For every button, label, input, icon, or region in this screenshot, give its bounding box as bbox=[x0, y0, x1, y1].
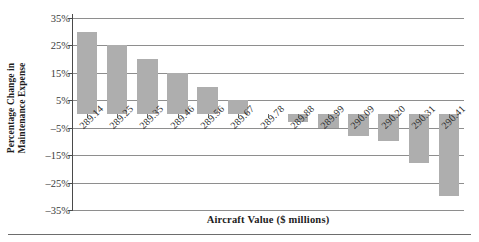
gridline bbox=[72, 18, 464, 19]
y-axis-tick-mark bbox=[68, 73, 73, 74]
bar bbox=[137, 59, 158, 114]
x-axis-tick-mark bbox=[238, 114, 239, 118]
x-axis-tick-mark bbox=[178, 114, 179, 118]
x-axis-tick-mark bbox=[268, 114, 269, 118]
gridline bbox=[72, 183, 464, 184]
x-axis-tick-mark bbox=[449, 114, 450, 118]
bar bbox=[167, 73, 188, 114]
bar bbox=[228, 100, 249, 114]
y-axis-tick-mark bbox=[68, 128, 73, 129]
y-axis-tick-label: 15% bbox=[26, 67, 70, 78]
y-axis-tick-label: 5% bbox=[26, 95, 70, 106]
y-axis-tick-label: –15% bbox=[26, 150, 70, 161]
bottom-divider bbox=[8, 234, 471, 235]
x-axis-title: Aircraft Value ($ millions) bbox=[72, 214, 464, 225]
plot-area bbox=[72, 18, 464, 210]
y-axis-tick-label: –5% bbox=[26, 122, 70, 133]
x-axis-tick-mark bbox=[358, 114, 359, 118]
y-axis-tick-mark bbox=[68, 100, 73, 101]
x-axis-tick-mark bbox=[208, 114, 209, 118]
gridline bbox=[72, 73, 464, 74]
y-axis-tick-label: 25% bbox=[26, 40, 70, 51]
bar bbox=[378, 114, 399, 141]
gridline bbox=[72, 210, 464, 211]
y-axis-tick-label: –35% bbox=[26, 205, 70, 216]
y-axis-line bbox=[72, 14, 73, 210]
gridline bbox=[72, 128, 464, 129]
plot-inner bbox=[72, 18, 464, 210]
y-axis-title-line1: Percentage Change in bbox=[6, 62, 16, 152]
y-axis-tick-mark bbox=[68, 45, 73, 46]
x-axis-tick-mark bbox=[147, 114, 148, 118]
x-axis-tick-mark bbox=[328, 114, 329, 118]
bar bbox=[439, 114, 460, 196]
y-axis-tick-mark bbox=[68, 18, 73, 19]
chart-figure: Percentage Change in Maintenance Expense… bbox=[0, 0, 479, 242]
bar bbox=[77, 32, 98, 114]
y-axis-tick-labels: 35%25%15%5%–5%–15%–25%–35% bbox=[22, 0, 70, 242]
gridline bbox=[72, 100, 464, 101]
gridline bbox=[72, 155, 464, 156]
x-axis-tick-mark bbox=[117, 114, 118, 118]
bar bbox=[107, 45, 128, 114]
gridline bbox=[72, 45, 464, 46]
x-axis-tick-mark bbox=[389, 114, 390, 118]
y-axis-tick-label: 35% bbox=[26, 13, 70, 24]
y-axis-tick-label: –25% bbox=[26, 177, 70, 188]
bar bbox=[409, 114, 430, 163]
bar bbox=[197, 87, 218, 114]
y-axis-tick-mark bbox=[68, 183, 73, 184]
y-axis-tick-mark bbox=[68, 210, 73, 211]
x-axis-tick-mark bbox=[298, 114, 299, 118]
x-axis-tick-mark bbox=[87, 114, 88, 118]
x-axis-tick-mark bbox=[419, 114, 420, 118]
y-axis-tick-mark bbox=[68, 155, 73, 156]
